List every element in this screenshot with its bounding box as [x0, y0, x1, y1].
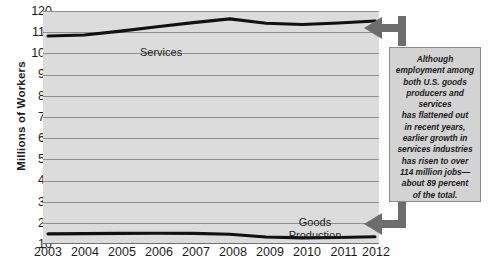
series-label-services: Services [140, 46, 182, 58]
series-label-goods-line1: Goods [280, 216, 350, 229]
x-tick-label: 2012 [354, 246, 398, 260]
callout-text: Although employment among both U.S. good… [395, 54, 475, 201]
x-axis-tick-labels: 2003 2004 2005 2006 2007 2008 2009 2010 … [43, 246, 379, 266]
plot-area: Services Goods Production [43, 11, 379, 244]
series-label-goods-production: Goods Production [280, 216, 350, 242]
series-label-goods-line2: Production [280, 229, 350, 242]
chart-figure: Millions of Workers 120 110 100 90 80 70… [0, 0, 489, 269]
series-line-services [48, 19, 375, 36]
series-lines [43, 11, 379, 244]
callout-box: Although employment among both U.S. good… [389, 47, 481, 202]
